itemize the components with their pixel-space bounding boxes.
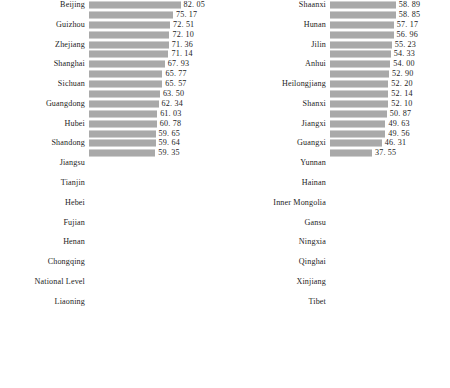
bar xyxy=(330,120,385,127)
category-label: Jiangxi xyxy=(225,120,326,128)
bar-track: 52. 10 xyxy=(330,99,446,109)
bar-value-label: 57. 17 xyxy=(397,21,418,29)
bar-value-label: 72. 51 xyxy=(173,21,194,29)
bar-track xyxy=(89,307,221,317)
category-label: Beijing xyxy=(0,1,85,9)
bar-value-label: 59. 64 xyxy=(159,139,180,147)
bar-value-label: 58. 89 xyxy=(399,1,420,9)
bar-value-label: 50. 87 xyxy=(390,110,411,118)
bar-track xyxy=(89,158,221,168)
bar-value-label: 72. 10 xyxy=(172,31,193,39)
bar-track: 62. 34 xyxy=(89,99,221,109)
bar-value-label: 52. 10 xyxy=(391,100,412,108)
bar-value-label: 65. 77 xyxy=(165,70,186,78)
bar-track xyxy=(89,247,221,257)
bar-row: Zhejiang71. 36 xyxy=(0,40,225,50)
category-label: Chongqing xyxy=(0,258,85,266)
category-label: Henan xyxy=(0,238,85,246)
bar-row: Jiangsu xyxy=(0,158,225,168)
bar-row: Fujian xyxy=(0,218,225,228)
category-label: Hubei xyxy=(0,120,85,128)
bar-track xyxy=(330,178,446,188)
bar xyxy=(330,61,390,68)
bar-row: Hunan57. 17 xyxy=(225,20,450,30)
bar xyxy=(330,140,382,147)
bar-track: 63. 50 xyxy=(89,89,221,99)
bar-row xyxy=(0,267,225,277)
bar-value-label: 65. 57 xyxy=(165,80,186,88)
bar-row: Guizhou72. 51 xyxy=(0,20,225,30)
bar xyxy=(330,41,392,48)
bar xyxy=(89,1,181,8)
bar-row: Anhui54. 00 xyxy=(225,59,450,69)
bar-track: 37. 55 xyxy=(330,148,446,158)
bar-row: Guangxi46. 31 xyxy=(225,138,450,148)
bar-track xyxy=(330,168,446,178)
bar xyxy=(89,21,170,28)
bar-chart-figure: Beijing82. 0575. 17Guizhou72. 5172. 10Zh… xyxy=(0,0,450,388)
bar-row: 63. 50 xyxy=(0,89,225,99)
category-label: Liaoning xyxy=(0,298,85,306)
right-chart-panel: Shaanxi58. 8958. 85Hunan57. 1756. 96Jili… xyxy=(225,0,450,388)
bar-track xyxy=(330,277,446,287)
category-label: Guangdong xyxy=(0,100,85,108)
bar-track xyxy=(89,287,221,297)
bar-row xyxy=(225,267,450,277)
bar xyxy=(330,71,389,78)
bar-row: Shandong59. 64 xyxy=(0,138,225,148)
category-label: Heilongjiang xyxy=(225,80,326,88)
category-label: Shanxi xyxy=(225,100,326,108)
bar xyxy=(89,11,173,18)
bar-row: Ningxia xyxy=(225,237,450,247)
bar xyxy=(89,41,169,48)
bar-value-label: 60. 78 xyxy=(160,120,181,128)
bar-row: 50. 87 xyxy=(225,109,450,119)
bar-row xyxy=(0,307,225,317)
category-label: Anhui xyxy=(225,60,326,68)
bar-value-label: 37. 55 xyxy=(375,149,396,157)
category-label: Zhejiang xyxy=(0,40,85,48)
bar-row xyxy=(225,307,450,317)
category-label: Yunnan xyxy=(225,159,326,167)
bar-track xyxy=(330,158,446,168)
bar xyxy=(330,51,391,58)
category-label: Shanghai xyxy=(0,60,85,68)
bar-row: 65. 77 xyxy=(0,69,225,79)
bar-row: 59. 35 xyxy=(0,148,225,158)
bar-track: 60. 78 xyxy=(89,119,221,129)
bar-value-label: 58. 85 xyxy=(399,11,420,19)
category-label: National Level xyxy=(0,278,85,286)
bar-value-label: 52. 14 xyxy=(391,90,412,98)
bar-row xyxy=(225,168,450,178)
bar-track: 61. 03 xyxy=(89,109,221,119)
bar-row: Hebei xyxy=(0,198,225,208)
category-label: Shaanxi xyxy=(225,1,326,9)
bar-value-label: 56. 96 xyxy=(397,31,418,39)
bar-track: 55. 23 xyxy=(330,40,446,50)
bar-track: 59. 64 xyxy=(89,138,221,148)
category-label: Jiangsu xyxy=(0,159,85,167)
bar-row: Henan xyxy=(0,237,225,247)
bar-row: Sichuan65. 57 xyxy=(0,79,225,89)
bar xyxy=(89,110,157,117)
bar-track xyxy=(330,237,446,247)
bar-track xyxy=(89,198,221,208)
bar-row: Shanghai67. 93 xyxy=(0,59,225,69)
bar-track xyxy=(89,188,221,198)
bar-track xyxy=(330,267,446,277)
bar-track xyxy=(330,188,446,198)
bar-row: Yunnan xyxy=(225,158,450,168)
bar-track xyxy=(330,287,446,297)
bar-value-label: 62. 34 xyxy=(162,100,183,108)
bar xyxy=(89,51,168,58)
bar-value-label: 54. 00 xyxy=(393,60,414,68)
bar xyxy=(89,100,159,107)
bar xyxy=(89,130,156,137)
bar-row xyxy=(225,188,450,198)
bar-value-label: 67. 93 xyxy=(168,60,189,68)
bar-value-label: 54. 33 xyxy=(394,50,415,58)
bar-row: 58. 85 xyxy=(225,10,450,20)
bar-row xyxy=(0,247,225,257)
bar-row: 49. 56 xyxy=(225,129,450,139)
bar-track: 58. 85 xyxy=(330,10,446,20)
